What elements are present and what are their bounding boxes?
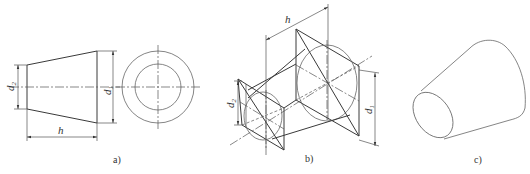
panel-a-front-view: d2 d1 h	[4, 51, 120, 141]
caption-b: b)	[305, 153, 313, 165]
cone-body-outline	[421, 40, 525, 139]
panel-b-construction: h d2 d1	[224, 4, 379, 155]
technical-drawing: d2 d1 h a)	[0, 0, 530, 174]
d1-label-b: d1	[362, 105, 376, 114]
d2-label: d2	[4, 82, 18, 92]
h-label: h	[58, 124, 64, 136]
panel-a-side-view	[116, 45, 200, 129]
h-dimension-line-b	[266, 7, 328, 40]
caption-a: a)	[113, 154, 121, 166]
panel-c-pictorial	[405, 40, 526, 145]
figure-canvas: d2 d1 h a)	[0, 0, 530, 174]
h-label-b: h	[285, 13, 291, 25]
d2-label-b: d2	[224, 99, 238, 109]
caption-c: c)	[474, 154, 482, 166]
